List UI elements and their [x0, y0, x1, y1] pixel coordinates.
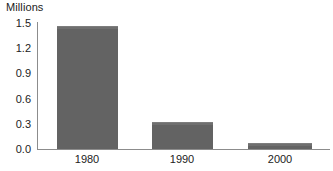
plot-area — [0, 0, 333, 171]
bar-top-highlight — [248, 143, 312, 146]
x-axis-tick-label: 1990 — [170, 152, 194, 166]
bar-2000 — [248, 143, 312, 149]
bar-1980 — [57, 26, 118, 149]
bar-chart: Millions 0.00.30.60.91.21.5 198019902000 — [0, 0, 333, 171]
bar-top-highlight — [57, 26, 118, 29]
bar-1990 — [152, 122, 213, 149]
x-axis-tick-label: 2000 — [268, 152, 292, 166]
bar-top-highlight — [152, 122, 213, 125]
x-axis-tick-label: 1980 — [75, 152, 99, 166]
